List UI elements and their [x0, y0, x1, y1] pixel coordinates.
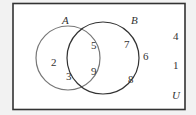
element-b-only: 6 [143, 50, 149, 62]
element-outside: 4 [173, 30, 179, 42]
element-intersection: 9 [91, 65, 97, 77]
set-label-b: B [131, 14, 138, 26]
venn-diagram: A B 2 3 5 9 7 6 8 4 1 U [0, 0, 196, 115]
element-intersection: 5 [91, 39, 97, 51]
element-b-only: 7 [124, 38, 130, 50]
element-b-only: 8 [128, 73, 134, 85]
universe-label: U [172, 89, 181, 101]
set-label-a: A [61, 14, 69, 26]
element-a-only: 2 [51, 56, 57, 68]
element-outside: 1 [173, 59, 179, 71]
venn-svg: A B 2 3 5 9 7 6 8 4 1 U [0, 0, 196, 115]
element-a-only: 3 [66, 70, 72, 82]
